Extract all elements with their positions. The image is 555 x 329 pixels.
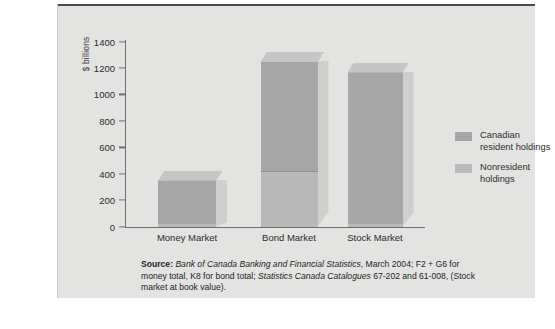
y-axis-tick-labels: 0200400600800100012001400 bbox=[71, 4, 115, 254]
y-tick-label: 1200 bbox=[71, 63, 115, 74]
chart-legend: Canadian resident holdings Nonresident h… bbox=[455, 130, 555, 194]
legend-label-line1: Nonresident bbox=[480, 162, 530, 172]
y-tick-label: 800 bbox=[71, 115, 115, 126]
legend-item: Canadian resident holdings bbox=[455, 130, 555, 153]
figure-panel: $ billions 0200400600800100012001400 Mon… bbox=[57, 4, 535, 298]
y-tick-mark bbox=[119, 173, 126, 174]
bar-top-face bbox=[348, 63, 409, 73]
source-text-1: , March 2004; bbox=[361, 259, 414, 269]
x-axis-label: Bond Market bbox=[262, 232, 316, 243]
source-italic-2: Statistics Canada Catalogues bbox=[258, 271, 371, 281]
x-axis-label: Money Market bbox=[157, 232, 217, 243]
source-italic-1: Bank of Canada Banking and Financial Sta… bbox=[175, 259, 360, 269]
bar-side-face bbox=[216, 180, 227, 226]
y-tick-label: 1400 bbox=[71, 36, 115, 47]
y-tick-mark bbox=[119, 67, 126, 68]
bar-segment-canadian-resident bbox=[348, 72, 403, 224]
legend-label-line1: Canadian bbox=[480, 130, 520, 140]
legend-label-nonresident: Nonresident holdings bbox=[480, 162, 530, 185]
bar-top-face bbox=[261, 52, 325, 62]
legend-label-line2: holdings bbox=[480, 174, 515, 184]
legend-label-canadian-resident: Canadian resident holdings bbox=[480, 130, 550, 153]
bar-top-face bbox=[158, 171, 223, 181]
legend-swatch-canadian-resident bbox=[455, 132, 472, 141]
bar-chart: $ billions 0200400600800100012001400 Mon… bbox=[57, 4, 457, 254]
bar-segment-nonresident bbox=[158, 224, 216, 227]
bar-side-face bbox=[403, 72, 414, 227]
y-tick-mark bbox=[119, 147, 126, 148]
bar-bond-market bbox=[261, 61, 318, 226]
bar-segment-nonresident bbox=[261, 172, 318, 226]
bar-segment-canadian-resident bbox=[158, 180, 216, 224]
y-tick-label: 400 bbox=[71, 168, 115, 179]
legend-item: Nonresident holdings bbox=[455, 162, 555, 185]
y-tick-mark bbox=[119, 120, 126, 121]
bar-stock-market bbox=[348, 72, 403, 227]
legend-swatch-nonresident bbox=[455, 164, 472, 173]
bar-segment-nonresident bbox=[348, 224, 403, 227]
legend-label-line2: resident holdings bbox=[480, 142, 550, 152]
plot-area bbox=[125, 24, 425, 229]
y-tick-label: 600 bbox=[71, 142, 115, 153]
source-note: Source: Bank of Canada Banking and Finan… bbox=[141, 259, 481, 294]
bar-side-face bbox=[318, 61, 329, 226]
y-tick-mark bbox=[119, 200, 126, 201]
bar-segment-divider bbox=[261, 171, 318, 172]
y-tick-mark bbox=[119, 94, 126, 95]
bar-segment-canadian-resident bbox=[261, 61, 318, 172]
y-tick-mark bbox=[119, 226, 126, 227]
source-label: Source: bbox=[141, 259, 173, 269]
y-tick-mark bbox=[119, 41, 126, 42]
y-tick-label: 200 bbox=[71, 195, 115, 206]
bar-money-market bbox=[158, 180, 216, 226]
x-axis-label: Stock Market bbox=[347, 232, 402, 243]
y-tick-label: 1000 bbox=[71, 89, 115, 100]
y-tick-label: 0 bbox=[71, 221, 115, 232]
